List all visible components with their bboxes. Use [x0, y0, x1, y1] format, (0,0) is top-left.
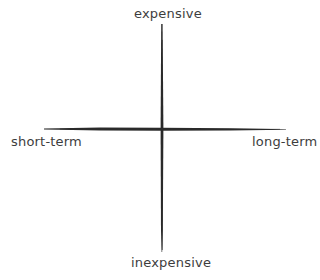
axis-label-expensive: expensive — [134, 6, 202, 21]
axis-label-long-term: long-term — [252, 134, 317, 149]
horizontal-axis — [44, 128, 286, 131]
axis-label-short-term: short-term — [11, 134, 82, 149]
quadrant-diagram: expensive inexpensive short-term long-te… — [0, 0, 320, 280]
axis-label-inexpensive: inexpensive — [131, 255, 211, 270]
vertical-axis — [161, 24, 164, 252]
